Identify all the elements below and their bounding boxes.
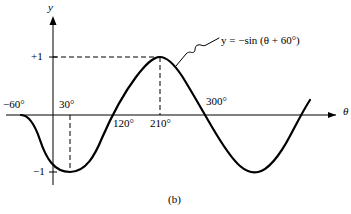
y-tick-label-plus-one: +1 [31,51,43,62]
x-axis [6,112,336,118]
y-tick-label-minus-one: −1 [33,166,45,177]
figure-panel: y θ +1 −1 −60° 30° 120° 210° 300° y = −s… [0,0,351,214]
x-tick-label-minus-60: −60° [3,99,25,110]
y-axis [50,16,57,185]
sine-wave-chart [0,0,351,214]
equation-leader-line [176,38,219,66]
equation-annotation: y = −sin (θ + 60°) [221,35,300,46]
y-axis-label: y [48,2,53,13]
x-tick-label-120: 120° [113,118,134,129]
x-tick-label-300: 300° [206,96,227,107]
figure-caption: (b) [168,194,181,205]
x-tick-label-210: 210° [150,118,171,129]
x-tick-label-30: 30° [59,99,74,110]
x-axis-label: θ [343,106,348,117]
